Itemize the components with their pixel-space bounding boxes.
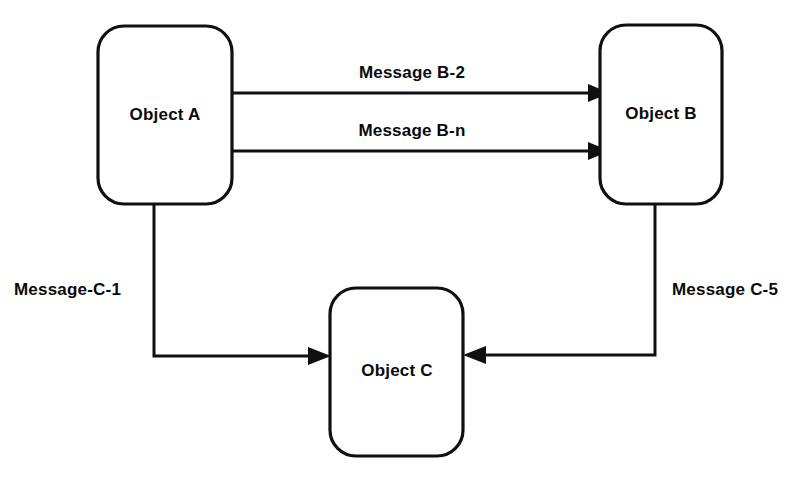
node-object-b-label: Object B: [625, 104, 697, 123]
node-object-c-label: Object C: [361, 361, 433, 380]
edge-message-c-1[interactable]: Message-C-1: [14, 204, 331, 365]
diagram-canvas: Message B-2 Message B-n Message-C-1 Mess…: [0, 0, 809, 484]
node-object-a[interactable]: Object A: [98, 26, 232, 204]
edge-message-b-n[interactable]: Message B-n: [232, 121, 610, 160]
edge-label-message-b-n: Message B-n: [358, 121, 465, 140]
arrow-head-icon: [463, 346, 486, 364]
edge-message-c-5-line: [486, 204, 655, 355]
edge-label-message-b-2: Message B-2: [359, 63, 465, 82]
edge-message-b-2[interactable]: Message B-2: [232, 63, 610, 102]
edge-message-c-1-line: [154, 204, 308, 356]
node-object-c[interactable]: Object C: [330, 288, 463, 456]
edge-message-c-5[interactable]: Message C-5: [463, 204, 778, 364]
arrow-head-icon: [308, 347, 331, 365]
edge-label-message-c-1: Message-C-1: [14, 280, 121, 299]
node-object-b[interactable]: Object B: [600, 25, 722, 204]
edge-label-message-c-5: Message C-5: [672, 280, 778, 299]
diagram-svg: Message B-2 Message B-n Message-C-1 Mess…: [0, 0, 809, 484]
node-object-a-label: Object A: [130, 105, 201, 124]
